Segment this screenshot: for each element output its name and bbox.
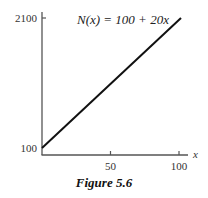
y-tick-label-2100: 2100	[15, 12, 38, 24]
figure-caption: Figure 5.6	[0, 175, 208, 191]
data-line	[42, 18, 181, 148]
y-tick-label-100: 100	[21, 142, 38, 154]
x-axis-label: x	[192, 148, 198, 160]
equation-label: N(x) = 100 + 20x	[76, 12, 169, 27]
x-tick-label-50: 50	[105, 160, 117, 172]
chart-figure: 2100 100 50 100 x N(x) = 100 + 20x	[0, 0, 208, 198]
x-tick-label-100: 100	[171, 160, 188, 172]
